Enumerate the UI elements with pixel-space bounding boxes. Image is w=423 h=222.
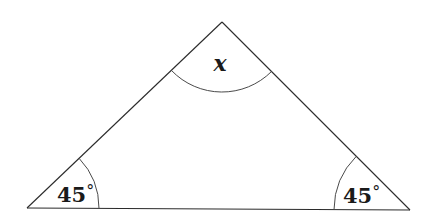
base [27, 208, 410, 210]
degree-symbol: ° [372, 182, 380, 201]
bottom-left-angle-label: 45° [57, 181, 94, 207]
bottom-right-angle-label: 45° [343, 182, 380, 208]
left-side [27, 22, 222, 208]
bottom-left-angle-value: 45 [57, 182, 86, 207]
right-side [222, 22, 410, 210]
bottom-right-angle-value: 45 [343, 183, 372, 208]
triangle-diagram: x 45° 45° [0, 0, 423, 222]
top-angle-label: x [212, 50, 227, 76]
angle-arcs [79, 71, 356, 210]
degree-symbol: ° [86, 181, 94, 200]
